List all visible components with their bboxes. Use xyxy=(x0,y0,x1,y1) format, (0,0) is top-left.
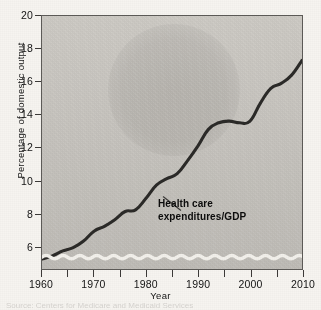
x-tick-mark-1960 xyxy=(41,270,42,277)
x-tick-mark-1970 xyxy=(93,270,94,277)
y-tick-label-16: 16 xyxy=(0,76,33,87)
chart-figure: Percentage of domestic output 6810121416… xyxy=(0,0,321,310)
x-tick-mark-1990 xyxy=(198,270,199,277)
y-tick-label-18: 18 xyxy=(0,43,33,54)
source-note-cropped: Source: Centers for Medicare and Medicai… xyxy=(6,302,236,310)
x-tick-mark-2000 xyxy=(251,270,252,277)
x-tick-mark-1995 xyxy=(224,270,225,277)
y-tick-label-12: 12 xyxy=(0,142,33,153)
x-tick-mark-1975 xyxy=(120,270,121,277)
x-tick-mark-1985 xyxy=(172,270,173,277)
annotation-health-care: Health care expenditures/GDP xyxy=(158,198,246,223)
x-tick-label-2010: 2010 xyxy=(283,279,321,290)
x-tick-mark-1965 xyxy=(67,270,68,277)
x-tick-label-1980: 1980 xyxy=(126,279,166,290)
x-tick-mark-2010 xyxy=(303,270,304,277)
axis-break-wave xyxy=(42,16,302,269)
x-tick-label-1960: 1960 xyxy=(21,279,61,290)
axis-break-stroke xyxy=(42,255,302,258)
x-tick-mark-2005 xyxy=(277,270,278,277)
x-tick-label-2000: 2000 xyxy=(231,279,271,290)
x-tick-label-1990: 1990 xyxy=(178,279,218,290)
y-tick-label-10: 10 xyxy=(0,176,33,187)
annotation-line-2: expenditures/GDP xyxy=(158,211,246,224)
y-tick-label-8: 8 xyxy=(0,209,33,220)
plot-area xyxy=(41,15,303,270)
x-tick-label-1970: 1970 xyxy=(73,279,113,290)
x-axis-title: Year xyxy=(0,290,321,301)
y-tick-label-14: 14 xyxy=(0,109,33,120)
y-tick-label-20: 20 xyxy=(0,10,33,21)
source-note-text: Source: Centers for Medicare and Medicai… xyxy=(6,302,236,310)
x-tick-mark-1980 xyxy=(146,270,147,277)
annotation-line-1: Health care xyxy=(158,198,246,211)
y-tick-label-6: 6 xyxy=(0,242,33,253)
